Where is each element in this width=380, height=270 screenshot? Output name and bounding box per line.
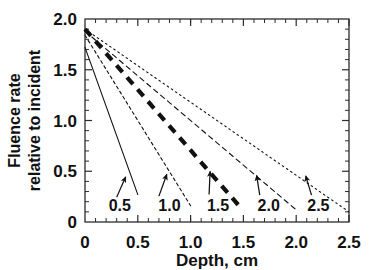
x-tick-label: 2.0 (284, 233, 308, 252)
series-line-2.0 (85, 31, 296, 210)
callout-label-2.0: 2.0 (258, 197, 280, 214)
y-tick-label: 1.5 (53, 61, 77, 80)
fluence-rate-vs-depth-chart: 00.51.01.52.02.500.51.01.52.0Depth, cmFl… (0, 0, 380, 270)
callout-arrow-0.5 (117, 177, 126, 197)
callout-label-1.0: 1.0 (158, 197, 180, 214)
callout-label-1.5: 1.5 (207, 197, 229, 214)
y-tick-label: 2.0 (53, 10, 77, 29)
callout-label-0.5: 0.5 (109, 197, 131, 214)
x-axis-label: Depth, cm (176, 251, 258, 270)
x-tick-label: 1.0 (179, 233, 203, 252)
y-tick-label: 0 (68, 213, 77, 232)
x-tick-label: 0 (80, 233, 89, 252)
y-axis-label-line1: Fluence rate (6, 73, 23, 167)
series-line-1.5 (85, 29, 238, 205)
callout-label-2.5: 2.5 (307, 197, 329, 214)
callout-arrow-1.0 (159, 174, 167, 196)
y-tick-label: 1.0 (53, 112, 77, 131)
x-tick-label: 1.5 (232, 233, 256, 252)
series-line-2.5 (85, 29, 349, 212)
y-axis-label-line2: relative to incident (26, 49, 43, 191)
callout-arrow-1.5 (209, 171, 210, 194)
series-line-1.0 (85, 35, 191, 206)
y-tick-label: 0.5 (53, 162, 77, 181)
x-tick-label: 0.5 (126, 233, 150, 252)
x-tick-label: 2.5 (337, 233, 361, 252)
figure-container: 00.51.01.52.02.500.51.01.52.0Depth, cmFl… (0, 0, 380, 270)
